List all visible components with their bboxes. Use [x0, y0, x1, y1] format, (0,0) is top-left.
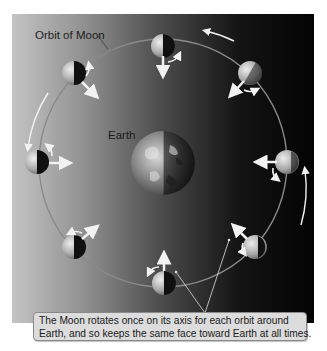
moon-orbit-diagram [0, 0, 327, 351]
pointer-dot [228, 239, 231, 242]
caption-line-1: The Moon rotates once on its axis for ea… [39, 315, 306, 328]
earth-icon [131, 131, 195, 195]
caption-line-2: Earth, and so keeps the same face toward… [39, 328, 306, 341]
earth-label: Earth [108, 129, 136, 141]
caption-box: The Moon rotates once on its axis for ea… [33, 312, 307, 341]
orbit-of-moon-label: Orbit of Moon [35, 29, 105, 41]
pointer-dot [175, 271, 178, 274]
